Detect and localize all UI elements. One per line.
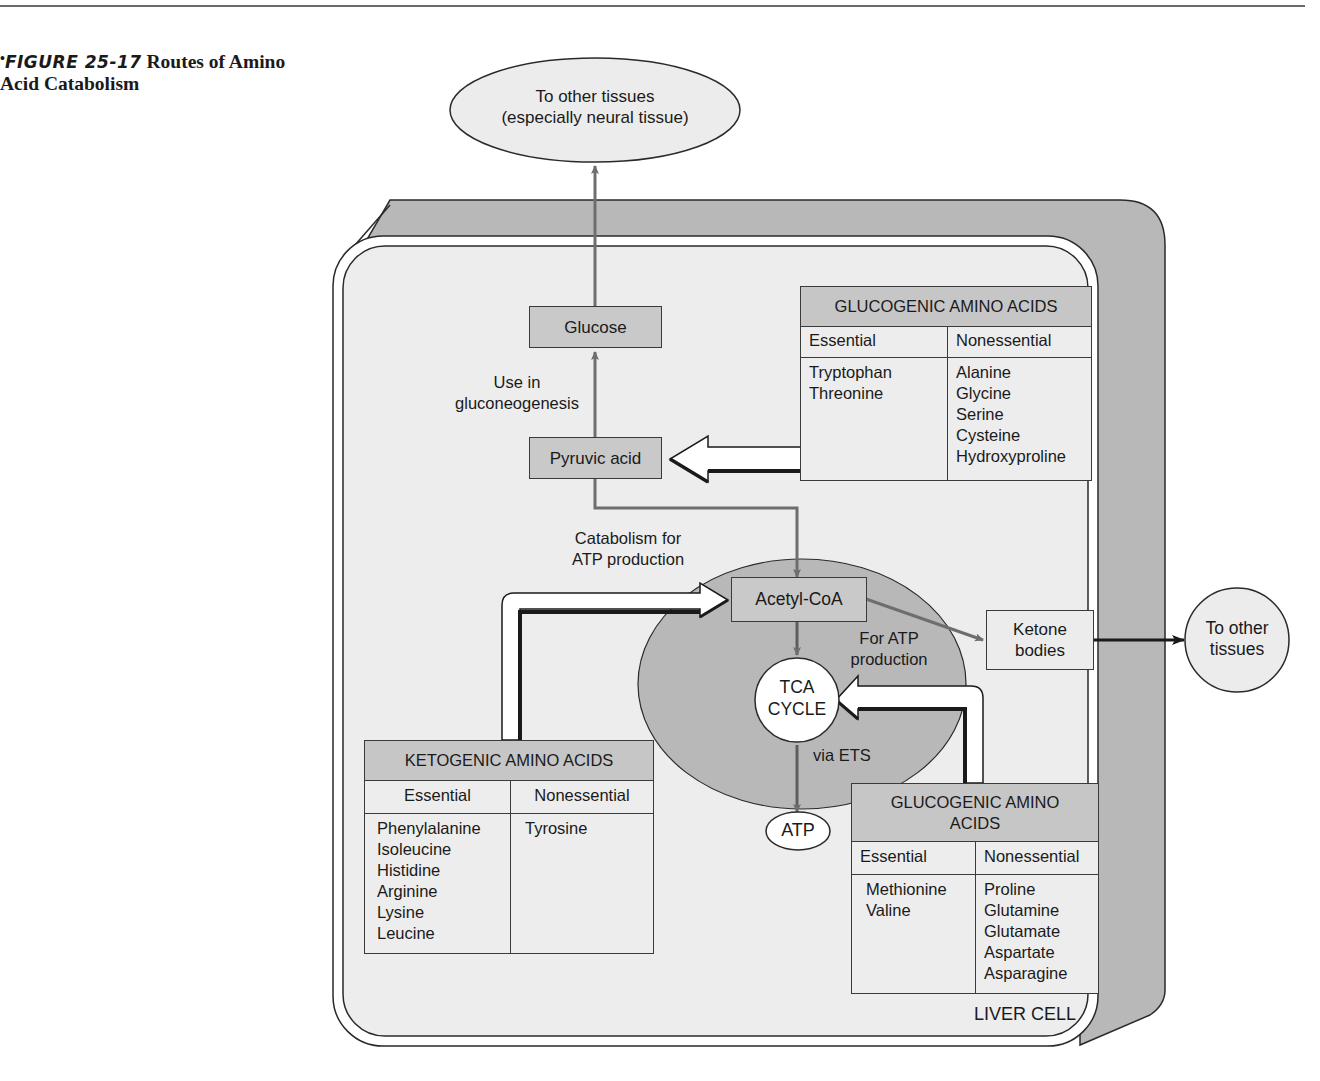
glucogenic-top-essential-list: Tryptophan Threonine [801, 358, 948, 480]
glucogenic-top-title: GLUCOGENIC AMINO ACIDS [801, 287, 1091, 327]
glucogenic-table-bottom: GLUCOGENIC AMINO ACIDS Essential Nonesse… [851, 783, 1099, 994]
glucogenic-top-nonessential-list: Alanine Glycine Serine Cysteine Hydroxyp… [948, 358, 1091, 480]
glucose-node: Glucose [529, 306, 662, 348]
acetyl-coa-node: Acetyl-CoA [731, 577, 867, 622]
glucogenic-top-col-nonessential: Nonessential [948, 327, 1091, 357]
tca-cycle-label: TCA CYCLE [757, 676, 837, 720]
gluconeogenesis-label: Use in gluconeogenesis [445, 372, 589, 414]
glucogenic-table-top: GLUCOGENIC AMINO ACIDS Essential Nonesse… [800, 286, 1092, 481]
ketogenic-col-nonessential: Nonessential [511, 781, 653, 813]
glucogenic-bottom-col-essential: Essential [852, 842, 976, 874]
via-ets-label: via ETS [802, 745, 882, 766]
other-tissues-neural-label: To other tissues (especially neural tiss… [450, 86, 740, 128]
catabolism-label: Catabolism for ATP production [548, 528, 708, 570]
for-atp-production-label: For ATP production [836, 628, 942, 670]
liver-cell-label: LIVER CELL [960, 1004, 1090, 1025]
ketogenic-nonessential-list: Tyrosine [511, 814, 653, 953]
glucogenic-bottom-nonessential-list: Proline Glutamine Glutamate Aspartate As… [976, 875, 1098, 993]
ketone-bodies-node: Ketone bodies [986, 610, 1094, 670]
glucogenic-bottom-title: GLUCOGENIC AMINO ACIDS [852, 784, 1098, 842]
ketogenic-table: KETOGENIC AMINO ACIDS Essential Nonessen… [364, 740, 654, 954]
atp-label: ATP [766, 820, 830, 841]
pyruvic-acid-node: Pyruvic acid [529, 437, 662, 479]
glucogenic-top-col-essential: Essential [801, 327, 948, 357]
ketogenic-title: KETOGENIC AMINO ACIDS [365, 741, 653, 781]
glucogenic-bottom-essential-list: Methionine Valine [852, 875, 976, 993]
ketogenic-col-essential: Essential [365, 781, 511, 813]
other-tissues-label: To other tissues [1185, 618, 1289, 660]
ketogenic-essential-list: Phenylalanine Isoleucine Histidine Argin… [365, 814, 511, 953]
glucogenic-bottom-col-nonessential: Nonessential [976, 842, 1098, 874]
